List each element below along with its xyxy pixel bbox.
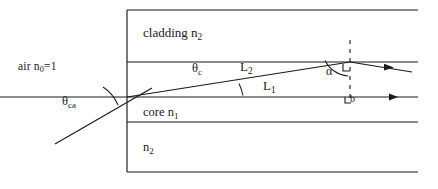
refracted-ray <box>127 62 350 97</box>
theta-ca-angle-arc <box>103 87 118 105</box>
lower-cladding-label: n2 <box>143 141 154 156</box>
alpha-label: α <box>326 65 332 77</box>
length-l1-label: L1 <box>263 79 276 95</box>
core-label: core n1 <box>143 106 178 121</box>
optical-axis-arrowhead <box>389 94 398 101</box>
cladding-label: cladding n2 <box>143 26 202 42</box>
optical-fiber-diagram: air n0=1 cladding n2 core n1 n2 θc θca L… <box>0 0 438 189</box>
air-medium-label: air n0=1 <box>18 61 57 75</box>
right-angle-tick-upper <box>343 64 350 71</box>
theta-c-label: θc <box>192 62 202 77</box>
point-b-label: b <box>350 94 355 104</box>
reflected-ray-arrowhead <box>384 64 394 71</box>
theta-ca-label: θca <box>62 95 76 110</box>
reflected-ray <box>350 62 412 72</box>
theta-c-angle-arc <box>239 84 243 96</box>
length-l2-label: L2 <box>240 60 253 76</box>
